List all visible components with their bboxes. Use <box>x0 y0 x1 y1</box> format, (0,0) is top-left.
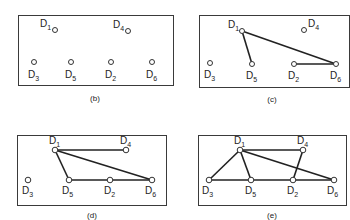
node-d3 <box>206 177 212 183</box>
node-label-d6: D6 <box>146 69 157 82</box>
panel-b: D1D4D3D5D2D6(b) <box>19 16 174 104</box>
node-label-d2: D2 <box>105 69 116 82</box>
node-d4 <box>300 147 306 153</box>
node-d4 <box>126 29 131 34</box>
panel-caption: (e) <box>267 211 277 220</box>
edge-d4-d2 <box>293 150 303 180</box>
node-d1 <box>237 147 243 153</box>
panel-e: D1D4D3D5D2D6(e) <box>199 135 347 220</box>
panel-d: D1D4D3D5D2D6(d) <box>18 135 167 220</box>
node-label-d4: D4 <box>297 135 308 148</box>
node-d6 <box>334 62 339 67</box>
node-label-d2: D2 <box>287 185 298 198</box>
node-d2 <box>109 60 114 65</box>
node-d2 <box>292 62 297 67</box>
node-label-d6: D6 <box>327 185 338 198</box>
node-d5 <box>69 60 74 65</box>
node-d2 <box>290 177 296 183</box>
node-label-d5: D5 <box>62 185 73 198</box>
node-label-d2: D2 <box>104 185 115 198</box>
node-d6 <box>150 60 155 65</box>
node-label-d6: D6 <box>330 70 341 83</box>
node-d5 <box>66 177 72 183</box>
panel-frame <box>200 16 350 88</box>
node-d4 <box>302 28 307 33</box>
node-label-d4: D4 <box>308 18 319 31</box>
node-d6 <box>149 177 155 183</box>
node-d1 <box>52 147 58 153</box>
node-label-d3: D3 <box>204 69 215 82</box>
node-label-d2: D2 <box>288 70 299 83</box>
node-d2 <box>107 177 113 183</box>
edge-d1-d3 <box>209 150 240 180</box>
edge-d1-d6 <box>240 150 334 180</box>
node-d5 <box>250 62 255 67</box>
node-label-d1: D1 <box>234 135 245 148</box>
panel-c: D1D4D3D5D2D6(c) <box>200 16 350 105</box>
panel-caption: (b) <box>90 94 100 103</box>
node-d1 <box>53 28 58 33</box>
node-label-d5: D5 <box>65 69 76 82</box>
node-label-d1: D1 <box>40 18 51 31</box>
node-label-d4: D4 <box>113 19 124 32</box>
panel-frame <box>199 136 347 206</box>
node-d3 <box>25 177 31 183</box>
edge-d1-d6 <box>55 150 152 180</box>
node-label-d5: D5 <box>245 185 256 198</box>
panel-caption: (d) <box>87 211 97 220</box>
node-label-d5: D5 <box>246 70 257 83</box>
node-d1 <box>240 29 245 34</box>
edge-d1-d5 <box>242 31 252 64</box>
node-label-d4: D4 <box>120 135 131 148</box>
graph-figure: D1D4D3D5D2D6(b)D1D4D3D5D2D6(c)D1D4D3D5D2… <box>0 0 350 220</box>
node-d5 <box>248 177 254 183</box>
node-d3 <box>32 60 37 65</box>
node-label-d1: D1 <box>228 19 239 32</box>
node-d4 <box>123 147 129 153</box>
panel-caption: (c) <box>267 95 277 104</box>
node-d3 <box>208 61 213 66</box>
edge-d1-d6 <box>242 31 336 64</box>
node-label-d3: D3 <box>22 185 33 198</box>
node-label-d6: D6 <box>145 185 156 198</box>
node-label-d1: D1 <box>49 135 60 148</box>
node-d6 <box>331 177 337 183</box>
node-label-d3: D3 <box>28 69 39 82</box>
node-label-d3: D3 <box>202 185 213 198</box>
edge-d1-d5 <box>240 150 251 180</box>
